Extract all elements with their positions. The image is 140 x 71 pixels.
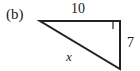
side-label-top: 10: [71, 2, 85, 16]
side-label-hypotenuse: x: [66, 50, 72, 63]
part-label: (b): [6, 7, 24, 22]
right-triangle-shape: [40, 21, 120, 69]
side-label-right: 7: [127, 36, 134, 50]
geometry-figure: (b) 10 7 x: [0, 0, 140, 71]
